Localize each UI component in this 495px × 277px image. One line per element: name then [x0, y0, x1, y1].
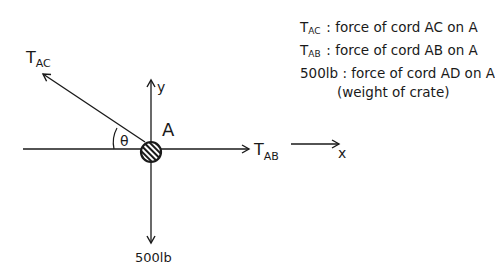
- legend-separator: :: [326, 42, 331, 58]
- force-label-tac: TAC: [25, 48, 51, 70]
- legend-separator: :: [326, 19, 331, 35]
- legend-item-tac: TAC : force of cord AC on A: [300, 18, 495, 41]
- legend-symbol: 500lb: [300, 65, 338, 81]
- particle-a: [141, 142, 161, 162]
- x-axis-label: x: [338, 145, 346, 161]
- angle-arc: [113, 128, 117, 149]
- angle-label: θ: [120, 133, 129, 149]
- legend-symbol: TAC: [300, 18, 322, 41]
- tac-arrow: [43, 74, 145, 142]
- legend-symbol: TAB: [300, 41, 322, 64]
- legend-text: force of cord AC on A: [335, 19, 478, 35]
- legend-text: force of cord AB on A: [335, 42, 478, 58]
- point-label: A: [162, 119, 175, 140]
- force-legend: TAC : force of cord AC on A TAB : force …: [300, 18, 495, 102]
- y-axis-label: y: [157, 79, 165, 95]
- legend-separator: :: [342, 65, 347, 81]
- force-label-weight: 500lb: [135, 250, 172, 265]
- force-label-tab: TAB: [253, 140, 279, 163]
- legend-item-tab: TAB : force of cord AB on A: [300, 41, 495, 64]
- legend-text: force of cord AD on A: [351, 65, 495, 81]
- legend-item-weight: 500lb : force of cord AD on A: [300, 64, 495, 83]
- legend-item-weight-note: (weight of crate): [300, 83, 495, 102]
